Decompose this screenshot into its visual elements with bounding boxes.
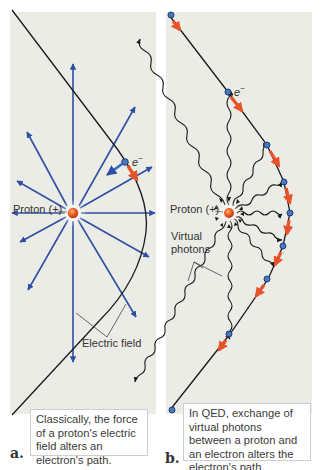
diagram-canvas (0, 0, 322, 470)
panel-a-field-leader (76, 304, 126, 337)
panel-b-proton-label: Proton (+) (170, 203, 219, 215)
panel-b-photons-label-line1: Virtual (171, 230, 210, 243)
panel-a-proton (68, 208, 78, 218)
panel-a-letter: a. (10, 445, 24, 461)
panel-b-photons-leader-2 (194, 262, 222, 276)
panel-a-attraction-arrow (107, 164, 122, 175)
panel-a-electron-label: e− (132, 154, 143, 168)
panel-a-field-label: Electric field (82, 337, 141, 349)
panel-b-photons-label: Virtual photons (171, 230, 210, 256)
panel-b-photons-label-line2: photons (171, 243, 210, 256)
panel-a-electron (122, 159, 129, 166)
panel-b-letter: b. (165, 450, 180, 466)
panel-a-proton-label: Proton (+) (13, 203, 62, 215)
panel-b-proton (224, 208, 234, 218)
panel-b-caption: In QED, exchange of virtual photons betw… (183, 403, 311, 461)
panel-b-electron-charge: − (240, 84, 245, 93)
panel-a-caption: Classically, the force of a proton's ele… (30, 409, 148, 456)
panel-b-electron-label: e− (234, 84, 245, 98)
panel-a-electron-charge: − (138, 154, 143, 163)
